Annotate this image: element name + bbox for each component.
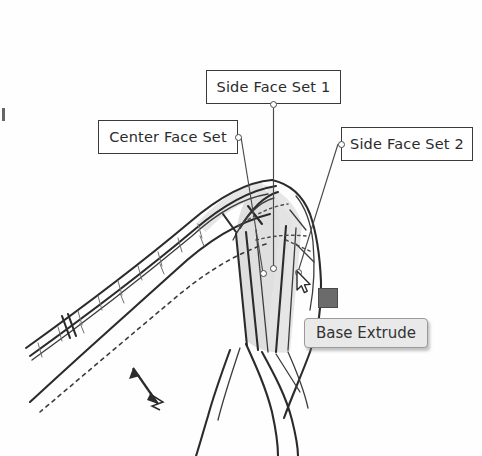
tooltip-base-extrude: Base Extrude — [304, 318, 428, 348]
drag-square-icon — [318, 288, 338, 308]
anchor-dot-side-face-set-1-model[interactable] — [270, 265, 277, 272]
anchor-dot-side-face-set-1-box[interactable] — [270, 101, 277, 108]
callout-center-face-set[interactable]: Center Face Set — [98, 120, 238, 154]
cad-figure-screenshot: .ln { fill:none; stroke:#2b2b2b; stroke-… — [0, 0, 482, 456]
callout-side-face-set-2[interactable]: Side Face Set 2 — [341, 127, 473, 161]
callout-side-face-set-1[interactable]: Side Face Set 1 — [206, 70, 341, 104]
double-arrow-axis-icon — [129, 368, 163, 410]
page-edge-artifact — [2, 108, 5, 121]
cad-model-viewport[interactable]: .ln { fill:none; stroke:#2b2b2b; stroke-… — [0, 0, 482, 456]
anchor-dot-center-face-set-box[interactable] — [235, 134, 242, 141]
model-outline-primary — [26, 180, 276, 402]
anchor-dot-side-face-set-2-box[interactable] — [338, 141, 345, 148]
anchor-dot-center-face-set-model[interactable] — [260, 270, 267, 277]
arrow-pointer-icon — [296, 270, 312, 295]
